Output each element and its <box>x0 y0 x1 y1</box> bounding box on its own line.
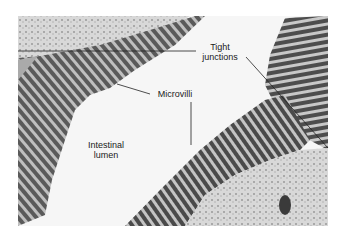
label-lumen-line1: Intestinal <box>78 140 134 150</box>
micrograph-image <box>0 0 341 240</box>
label-tight-line2: junctions <box>193 52 247 62</box>
label-tight-junctions: Tight junctions <box>193 42 247 62</box>
label-microvilli: Microvilli <box>150 89 200 99</box>
label-intestinal-lumen: Intestinal lumen <box>78 140 134 160</box>
label-lumen-line2: lumen <box>78 150 134 160</box>
micrograph-figure: Tight junctions Microvilli Intestinal lu… <box>0 0 341 240</box>
label-tight-line1: Tight <box>193 42 247 52</box>
